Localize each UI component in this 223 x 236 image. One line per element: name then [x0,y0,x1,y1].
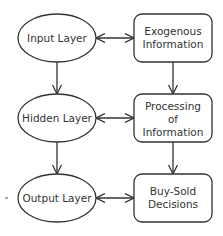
node-processing-of-information: Processing of Information [134,94,212,142]
node-decisions-label-1: Buy-Sold [150,185,196,197]
node-output-layer: Output Layer [18,174,96,222]
node-processing-label-3: Information [143,126,204,138]
node-input-label: Input Layer [27,32,87,44]
node-hidden-layer: Hidden Layer [18,94,96,142]
node-input-layer: Input Layer [18,14,96,62]
node-output-label: Output Layer [22,192,92,204]
node-processing-label-1: Processing [145,100,201,112]
node-processing-label-2: of [168,113,178,125]
node-decisions-label-2: Decisions [148,198,198,210]
node-exogenous-label-1: Exogenous [144,25,201,37]
node-exogenous-label-2: Information [143,38,204,50]
neural-network-diagram: Input Layer Hidden Layer Output Layer Ex… [0,0,223,236]
node-buy-sold-decisions: Buy-Sold Decisions [134,174,212,222]
node-hidden-label: Hidden Layer [22,112,93,124]
node-exogenous-information: Exogenous Information [134,14,212,62]
